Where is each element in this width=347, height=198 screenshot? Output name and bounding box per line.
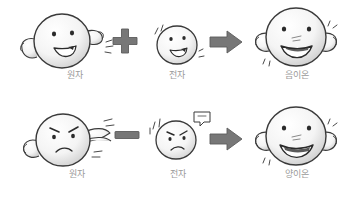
arrow-right-icon xyxy=(209,30,243,54)
speech-bubble-icon xyxy=(194,112,210,126)
minus-sign-icon xyxy=(114,129,140,141)
operator-arrow-bottom xyxy=(209,127,245,151)
term-atom-angry: 원자 xyxy=(18,107,136,180)
electron-happy-illustration xyxy=(143,18,211,70)
term-label-electron-2: 전자 xyxy=(142,169,214,180)
operator-minus xyxy=(114,129,144,141)
cation-figure xyxy=(249,103,345,169)
term-label-atom: 원자 xyxy=(18,70,133,81)
anion-figure xyxy=(249,4,345,70)
anion-illustration xyxy=(249,4,345,70)
term-electron-incoming: 전자 xyxy=(143,18,211,81)
term-cation: 양이온 xyxy=(249,103,345,180)
term-anion: 음이온 xyxy=(249,4,345,81)
electron-angry-figure xyxy=(142,109,214,169)
electron-angry-illustration xyxy=(142,109,214,169)
term-label-electron: 전자 xyxy=(143,70,211,81)
operator-plus xyxy=(112,28,140,54)
term-label-atom-2: 원자 xyxy=(18,169,136,180)
term-label-anion: 음이온 xyxy=(249,70,345,81)
ion-formation-diagram: 원자 xyxy=(0,0,347,198)
term-label-cation: 양이온 xyxy=(249,169,345,180)
term-electron-leaving: 전자 xyxy=(142,109,214,180)
equation-row-anion: 원자 xyxy=(0,0,347,99)
plus-sign-icon xyxy=(112,28,138,54)
arrow-right-icon xyxy=(209,127,243,151)
operator-arrow-top xyxy=(209,30,245,54)
equation-row-cation: 원자 xyxy=(0,99,347,198)
cation-illustration xyxy=(249,103,345,169)
electron-happy-figure xyxy=(143,18,211,70)
